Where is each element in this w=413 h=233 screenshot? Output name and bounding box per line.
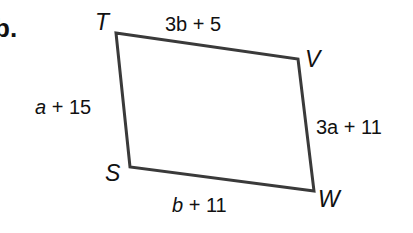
- quadrilateral-TVWS: [116, 33, 314, 191]
- vertex-S-label: S: [105, 160, 121, 186]
- side-SW-var: b: [172, 194, 183, 216]
- side-VW-label: 3a + 11: [316, 116, 382, 138]
- side-VW-rest: + 11: [338, 116, 382, 138]
- side-TS-var: a: [35, 96, 46, 118]
- side-SW-rest: + 11: [183, 194, 227, 216]
- quadrilateral-diagram: b. T V W S 3b + 5 3a + 11 b + 11 a + 15: [0, 0, 413, 233]
- side-TV-label: 3b + 5: [165, 13, 221, 35]
- side-TS-rest: + 15: [46, 96, 91, 118]
- side-TV-rest: + 5: [187, 13, 221, 35]
- vertex-V-label: V: [305, 46, 323, 72]
- diagram-canvas: b. T V W S 3b + 5 3a + 11 b + 11 a + 15: [0, 0, 413, 233]
- problem-label: b.: [0, 13, 17, 43]
- side-TS-label: a + 15: [35, 96, 91, 118]
- vertex-W-label: W: [318, 186, 342, 212]
- vertex-T-label: T: [95, 9, 111, 35]
- side-SW-label: b + 11: [172, 194, 227, 216]
- side-VW-var: 3a: [316, 116, 339, 138]
- side-TV-var: 3b: [165, 13, 187, 35]
